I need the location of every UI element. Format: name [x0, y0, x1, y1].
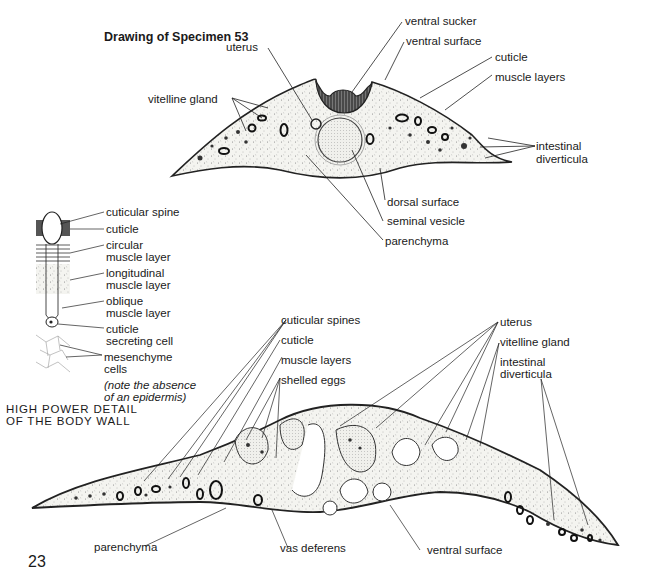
label-vas-deferens: vas deferens [280, 541, 346, 555]
label-longitudinal-2: muscle layer [106, 278, 171, 292]
label-mesenchyme-2: cells [104, 362, 127, 376]
specimen-drawings [0, 0, 645, 581]
label-cuticle-bottom: cuticle [281, 333, 314, 347]
label-muscle-layers-bottom: muscle layers [281, 353, 351, 367]
label-parenchyma-bottom: parenchyma [94, 540, 157, 554]
label-circular-2: muscle layer [106, 250, 171, 264]
page-number: 23 [28, 553, 46, 571]
label-dorsal-surface: dorsal surface [387, 195, 459, 209]
label-cuticle-top: cuticle [495, 50, 528, 64]
label-secreting-2: secreting cell [106, 334, 173, 348]
label-parenchyma-top: parenchyma [385, 234, 448, 248]
label-cuticular-spine: cuticular spine [106, 205, 180, 219]
label-uterus-bottom: uterus [500, 315, 532, 329]
label-cuticular-spines: cuticular spines [281, 313, 360, 327]
label-uterus-top: uterus [226, 40, 258, 54]
label-seminal-vesicle: seminal vesicle [387, 214, 465, 228]
label-intestinal-top-2: diverticula [536, 152, 588, 166]
body-wall-detail-drawing [36, 212, 104, 372]
label-vitelline-gland-bottom: vitelline gland [500, 335, 570, 349]
label-intestinal-bottom-2: diverticula [500, 367, 552, 381]
label-ventral-surface-top: ventral surface [406, 34, 481, 48]
label-muscle-layers-top: muscle layers [495, 70, 565, 84]
detail-caption-2: OF THE BODY WALL [6, 415, 130, 427]
label-ventral-sucker: ventral sucker [405, 14, 477, 28]
note-line-2: of an epidermis) [104, 390, 186, 404]
label-shelled-eggs: shelled eggs [281, 373, 346, 387]
label-oblique-2: muscle layer [106, 306, 171, 320]
label-intestinal-top-1: intestinal [536, 139, 581, 153]
label-ventral-surface-bottom: ventral surface [427, 543, 502, 557]
label-vitelline-gland-top: vitelline gland [148, 92, 218, 106]
cross-section-drawing [172, 22, 535, 240]
label-cuticle-detail: cuticle [106, 222, 139, 236]
detail-caption-1: HIGH POWER DETAIL [6, 403, 138, 415]
